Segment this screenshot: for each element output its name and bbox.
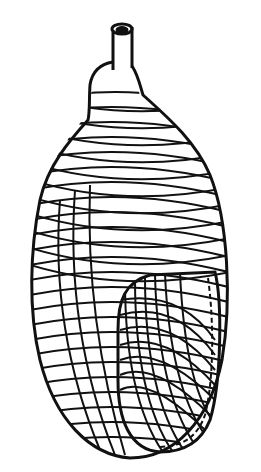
flask-illustration [0,0,261,472]
spout [112,24,132,70]
